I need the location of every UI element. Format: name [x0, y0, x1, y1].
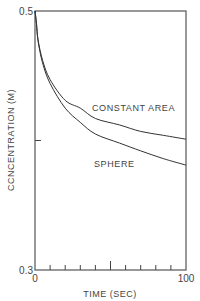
sphere-curve — [35, 11, 186, 165]
x-axis-title: TIME (SEC) — [83, 289, 137, 299]
sphere-label: SPHERE — [94, 159, 135, 169]
constant-area-curve — [35, 11, 186, 139]
y-axis-title: CCNCENTRATION (M) — [6, 89, 16, 191]
x-axis-ticks — [50, 261, 171, 270]
plot-frame — [35, 11, 186, 270]
x-tick-label-right: 100 — [178, 273, 195, 284]
chart: 0.5 0.3 0 100 TIME (SEC) CCNCENTRATION (… — [0, 0, 200, 301]
constant-area-label: CONSTANT AREA — [92, 103, 175, 113]
y-tick-label-top: 0.5 — [19, 6, 33, 17]
x-tick-label-left: 0 — [32, 273, 38, 284]
